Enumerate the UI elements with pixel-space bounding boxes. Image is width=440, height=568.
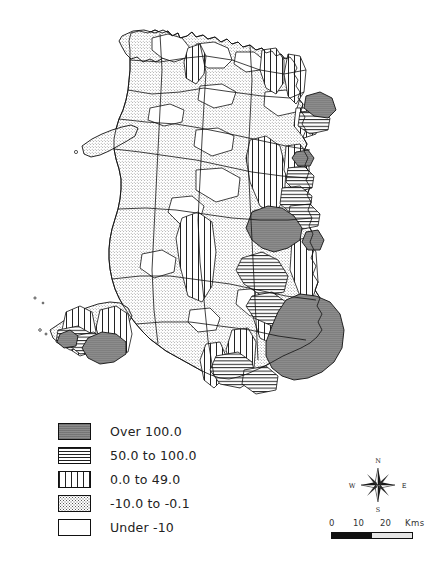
compass-label-south: S: [376, 506, 380, 514]
legend-swatch-under-minus10: [58, 519, 91, 536]
compass-label-west: W: [349, 482, 356, 490]
scale-bar-segment-light: [372, 533, 412, 538]
map-islet: [45, 333, 47, 335]
legend-item-minus10-to-minus01[interactable]: -10.0 to -0.1: [58, 491, 248, 515]
compass-label-north: N: [375, 457, 381, 465]
legend-swatch-over-100: [58, 423, 91, 440]
legend-item-0-to-49[interactable]: 0.0 to 49.0: [58, 467, 248, 491]
legend-swatch-minus10-to-minus01: [58, 495, 91, 512]
scale-tick-10: 10: [353, 518, 364, 528]
scale-bar-ticks: 0 10 20 Kms: [329, 518, 429, 530]
map-district-horizontal[interactable]: [242, 366, 278, 394]
compass-rose: N E S W: [343, 452, 413, 514]
compass-label-east: E: [402, 482, 407, 490]
map-canvas[interactable]: [0, 0, 440, 418]
map-page: Over 100.0 50.0 to 100.0 0.0 to 49.0 -10…: [0, 0, 440, 568]
legend-label-minus10-to-minus01: -10.0 to -0.1: [110, 496, 190, 511]
legend-label-50-to-100: 50.0 to 100.0: [110, 448, 197, 463]
compass-rose-icon: N E S W: [343, 452, 413, 514]
scale-tick-0: 0: [329, 518, 334, 528]
legend-label-under-minus10: Under -10: [110, 520, 174, 535]
legend-label-0-to-49: 0.0 to 49.0: [110, 472, 180, 487]
map-district-solid[interactable]: [302, 230, 324, 250]
legend-item-50-to-100[interactable]: 50.0 to 100.0: [58, 443, 248, 467]
legend-item-under-minus10[interactable]: Under -10: [58, 515, 248, 539]
legend-swatch-0-to-49: [58, 471, 91, 488]
scale-tick-20: 20: [380, 518, 391, 528]
map-islet: [74, 150, 77, 153]
map-islet: [42, 302, 44, 304]
map-legend: Over 100.0 50.0 to 100.0 0.0 to 49.0 -10…: [58, 419, 248, 545]
scale-bar-segment-dark: [332, 533, 372, 538]
scale-bar-track: [331, 532, 413, 539]
map-islet: [39, 329, 42, 332]
scale-unit-label: Kms: [405, 518, 425, 528]
legend-swatch-50-to-100: [58, 447, 91, 464]
legend-item-over-100[interactable]: Over 100.0: [58, 419, 248, 443]
wales-map-svg[interactable]: [0, 0, 440, 418]
scale-bar: 0 10 20 Kms: [329, 518, 429, 544]
map-islet: [34, 297, 36, 299]
legend-label-over-100: Over 100.0: [110, 424, 182, 439]
